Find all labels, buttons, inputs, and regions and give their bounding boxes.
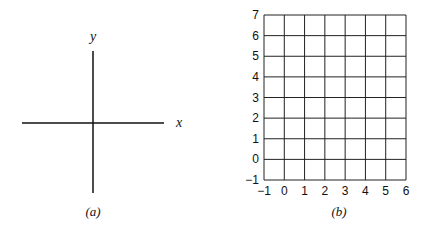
y-tick-label: 3 <box>252 91 259 105</box>
y-tick-label: 2 <box>252 111 259 125</box>
y-tick-label: 1 <box>252 132 259 146</box>
y-tick-label: 7 <box>252 8 259 22</box>
x-tick-label: 2 <box>322 184 329 198</box>
x-tick-label: 0 <box>281 184 288 198</box>
x-tick-label: 6 <box>403 184 410 198</box>
panel-b: −10123456−101234567 <box>245 8 409 198</box>
x-tick-label: 5 <box>382 184 389 198</box>
figure-canvas: y x (a) −10123456−101234567 (b) <box>0 0 429 232</box>
x-tick-label: 3 <box>342 184 349 198</box>
x-axis-label: x <box>175 115 183 130</box>
y-tick-label: 5 <box>252 49 259 63</box>
y-tick-label: −1 <box>245 173 259 187</box>
panel-a: y x (a) <box>22 29 183 219</box>
x-tick-label: −1 <box>257 184 271 198</box>
y-tick-label: 6 <box>252 29 259 43</box>
y-axis-label: y <box>88 29 97 44</box>
x-tick-label: 4 <box>362 184 369 198</box>
caption-a: (a) <box>85 204 100 219</box>
y-tick-label: 0 <box>252 152 259 166</box>
x-tick-label: 1 <box>301 184 308 198</box>
caption-b: (b) <box>331 204 346 219</box>
y-tick-label: 4 <box>252 70 259 84</box>
